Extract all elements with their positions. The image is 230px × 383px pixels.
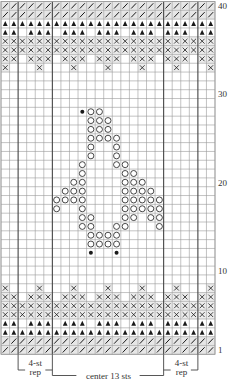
slash-icon [121,2,130,11]
cross-box-icon [44,310,53,319]
cross-box-icon [172,284,181,293]
cross-box-icon [112,54,121,63]
slash-icon [172,345,181,354]
slash-icon [69,10,78,19]
dot-icon [80,110,84,114]
slash-icon [129,337,138,346]
circle-icon [105,135,111,141]
cross-box-icon [206,310,215,319]
triangle-icon [131,21,136,26]
circle-icon [105,232,111,238]
slash-icon [18,2,27,11]
cross-box-icon [164,301,173,310]
slash-icon [198,337,207,346]
cross-box-icon [112,310,121,319]
slash-icon [155,2,164,11]
cross-box-icon [78,46,87,55]
cross-box-icon [155,310,164,319]
triangle-icon [29,30,34,35]
repeat-brackets: 4-st rep center 13 sts 4-st rep [18,354,198,380]
circle-icon [122,162,128,168]
slash-icon [104,10,113,19]
slash-icon [95,337,104,346]
cross-box-icon [147,37,156,46]
cross-box-icon [61,310,70,319]
cross-box-icon [69,301,78,310]
triangle-icon [88,21,93,26]
cross-box-icon [95,54,104,63]
triangle-icon [106,30,111,35]
cross-box-icon [18,310,27,319]
slash-icon [198,2,207,11]
circle-icon [88,215,94,221]
slash-icon [61,337,70,346]
triangle-icon [3,330,8,335]
triangle-icon [191,330,196,335]
slash-icon [27,10,36,19]
triangle-icon [140,30,145,35]
left-rep-label-line2: rep [29,367,41,377]
circle-icon [131,188,137,194]
cross-box-icon [27,301,36,310]
circle-icon [114,223,120,229]
slash-icon [44,345,53,354]
circle-icon [139,206,145,212]
slash-icon [138,2,147,11]
slash-icon [104,345,113,354]
circle-icon [122,188,128,194]
circle-icon [96,126,102,132]
cross-box-icon [35,310,44,319]
slash-icon [155,337,164,346]
slash-icon [44,337,53,346]
slash-icon [27,345,36,354]
slash-icon [44,10,53,19]
cross-box-icon [87,37,96,46]
slash-icon [121,10,130,19]
cross-box-icon [69,293,78,302]
cross-box-icon [147,301,156,310]
triangle-icon [37,330,42,335]
cross-box-icon [206,46,215,55]
row-label-10: 10 [218,266,228,276]
cross-box-icon [78,301,87,310]
cross-box-icon [104,37,113,46]
triangle-icon [106,330,111,335]
circle-icon [96,118,102,124]
cross-box-icon [129,310,138,319]
slash-icon [18,337,27,346]
slash-icon [189,337,198,346]
slash-icon [206,10,215,19]
slash-icon [10,10,19,19]
circle-icon [79,197,85,203]
triangle-icon [140,21,145,26]
cross-box-icon [138,301,147,310]
slash-icon [1,345,10,354]
triangle-icon [200,30,205,35]
cross-box-icon [18,301,27,310]
cross-box-icon [198,37,207,46]
slash-icon [87,10,96,19]
cross-box-icon [138,46,147,55]
triangle-icon [71,30,76,35]
cross-box-icon [61,46,70,55]
triangle-icon [46,321,51,326]
center-sts-label: center 13 sts [86,371,131,381]
knitting-chart: 403020101 4-st rep center 13 sts 4-st re… [0,0,230,383]
slash-icon [52,10,61,19]
cross-box-icon [121,301,130,310]
circle-icon [122,179,128,185]
cross-box-icon [129,293,138,302]
slash-icon [27,2,36,11]
slash-icon [87,2,96,11]
slash-icon [198,10,207,19]
triangle-icon [11,321,16,326]
cross-box-icon [121,310,130,319]
slash-icon [61,10,70,19]
triangle-icon [46,30,51,35]
triangle-icon [191,21,196,26]
cross-box-icon [155,301,164,310]
triangle-icon [106,321,111,326]
cross-box-icon [112,37,121,46]
cross-box-icon [1,37,10,46]
slash-icon [129,2,138,11]
